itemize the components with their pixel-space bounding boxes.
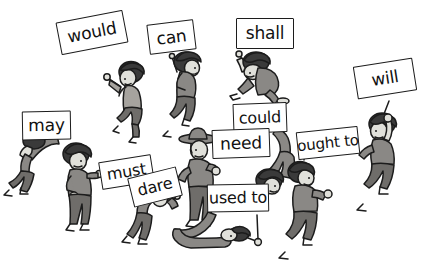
- sign-label-used-to: used to: [209, 189, 268, 206]
- sign-label-shall: shall: [246, 25, 285, 42]
- figure-can-holder: [163, 52, 201, 137]
- sign-may[interactable]: may: [22, 111, 71, 141]
- figure-shall-holder: [230, 51, 289, 109]
- sign-label-will: will: [370, 68, 400, 89]
- figure-must-holder: [63, 143, 102, 231]
- sign-label-would: would: [66, 19, 118, 45]
- sign-need[interactable]: need: [212, 128, 271, 159]
- sign-label-need: need: [220, 134, 262, 152]
- sign-can[interactable]: can: [146, 19, 196, 55]
- figure-would-holder: [104, 62, 144, 144]
- sign-shall[interactable]: shall: [236, 18, 294, 49]
- sign-label-may: may: [28, 117, 65, 135]
- sign-used-to[interactable]: used to: [207, 183, 269, 212]
- sign-label-could: could: [239, 109, 282, 126]
- figure-will-holder: [357, 101, 396, 211]
- sign-label-dare: dare: [136, 175, 174, 199]
- illustration-canvas: .ol{stroke:#1c1c1c;stroke-width:1.5;stro…: [0, 0, 433, 268]
- sign-label-ought-to: ought to: [296, 132, 359, 153]
- sign-label-can: can: [156, 27, 188, 48]
